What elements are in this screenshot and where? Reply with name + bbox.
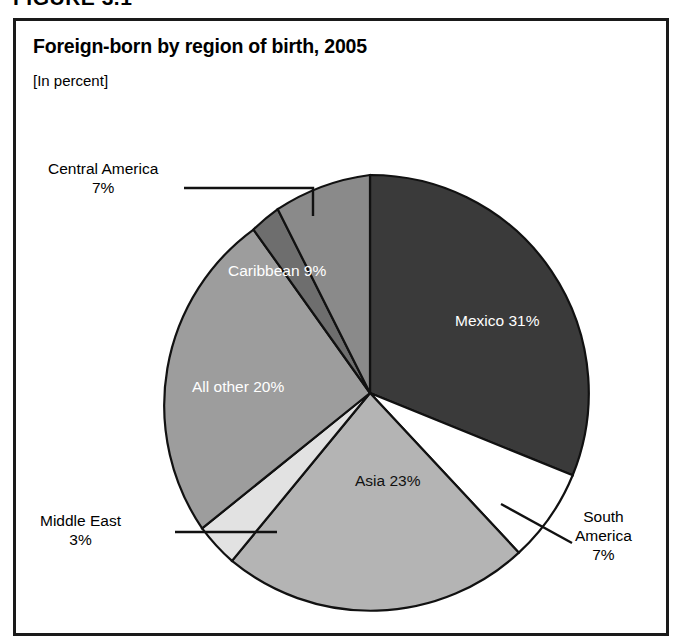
slice-label-asia: Asia 23% [355, 472, 421, 491]
slice-label-caribbean: Caribbean 9% [228, 262, 326, 281]
slice-label-asia-value: 23% [389, 472, 420, 489]
callout-middle-east-value: 3% [40, 531, 121, 550]
slice-label-mexico: Mexico 31% [455, 312, 539, 331]
slice-label-mexico-value: 31% [508, 312, 539, 329]
slice-label-all-other-name: All other [192, 378, 249, 395]
slice-label-mexico-name: Mexico [455, 312, 504, 329]
callout-central-america: Central America 7% [48, 160, 158, 198]
callout-central-america-value: 7% [48, 179, 158, 198]
callout-south-america-value: 7% [575, 546, 632, 565]
callout-middle-east: Middle East 3% [40, 512, 121, 550]
slice-label-asia-name: Asia [355, 472, 385, 489]
slice-label-caribbean-value: 9% [304, 262, 326, 279]
slice-label-all-other-value: 20% [253, 378, 284, 395]
callout-south-america-name2: America [575, 527, 632, 546]
slice-label-caribbean-name: Caribbean [228, 262, 300, 279]
callout-south-america-name: South [583, 508, 624, 525]
callout-south-america: South America 7% [575, 508, 632, 565]
callout-middle-east-name: Middle East [40, 512, 121, 529]
callout-central-america-name: Central America [48, 160, 158, 177]
slice-label-all-other: All other 20% [192, 378, 284, 397]
